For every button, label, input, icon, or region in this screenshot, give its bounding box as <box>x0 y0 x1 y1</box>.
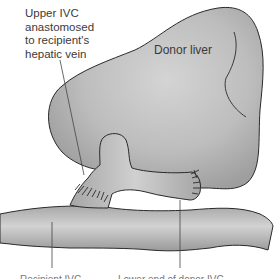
label-recipient-ivc-truncated: Recipient IVC <box>20 274 81 279</box>
label-donor-liver: Donor liver <box>154 44 212 58</box>
label-line-2: anastomosed <box>25 21 135 35</box>
label-line-4: hepatic vein <box>25 48 135 62</box>
recipient-ivc <box>0 206 273 251</box>
label-line-1: Upper IVC <box>25 7 135 21</box>
label-upper-ivc-anastomosis: Upper IVC anastomosed to recipient's hep… <box>25 7 135 61</box>
label-lower-donor-ivc-truncated: Lower end of donor IVC <box>118 274 224 279</box>
label-line-3: to recipient's <box>25 34 135 48</box>
